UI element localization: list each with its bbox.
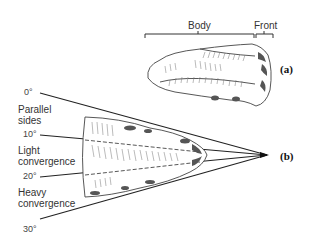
zone-label-line1: Light (18, 145, 75, 156)
zone-light-convergence: Light convergence (18, 145, 75, 167)
angle-0-label: 0° (24, 87, 33, 97)
angle-10-label: 10° (23, 129, 37, 139)
figure-a-tag: (a) (280, 63, 293, 75)
body-label: Body (188, 20, 211, 31)
zone-label-line2: sides (18, 115, 51, 126)
tool-a-drawing (148, 44, 271, 106)
angle-30-label: 30° (23, 224, 37, 234)
zone-label-line1: Heavy (18, 187, 75, 198)
zone-label-line2: convergence (18, 198, 75, 209)
figure-b-tag: (b) (280, 150, 293, 162)
zone-heavy-convergence: Heavy convergence (18, 187, 75, 209)
front-bracket (256, 31, 273, 38)
apex-point (260, 152, 269, 158)
angle-20-label: 20° (23, 171, 37, 181)
body-bracket (145, 31, 254, 38)
tool-b-drawing (83, 117, 208, 197)
zone-label-line1: Parallel (18, 104, 51, 115)
zone-parallel-sides: Parallel sides (18, 104, 51, 126)
front-label: Front (254, 20, 277, 31)
zone-label-line2: convergence (18, 156, 75, 167)
